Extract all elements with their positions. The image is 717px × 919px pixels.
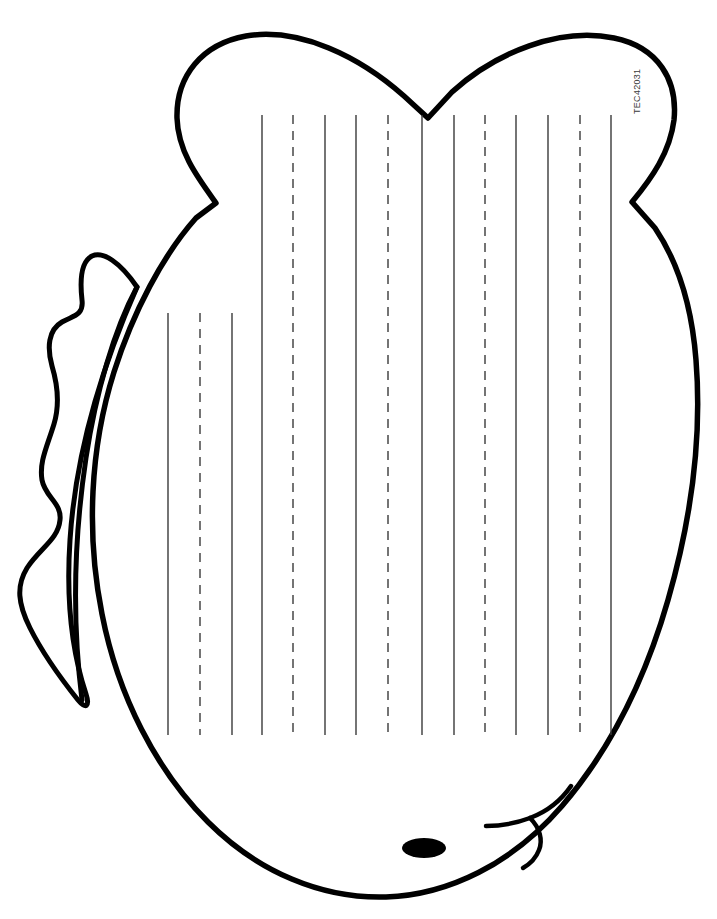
- turkey-artwork: [0, 0, 717, 919]
- body-outline: [92, 34, 697, 897]
- eye: [402, 838, 446, 858]
- printable-page: TEC42031: [0, 0, 717, 919]
- catalog-code-label: TEC42031: [630, 54, 644, 114]
